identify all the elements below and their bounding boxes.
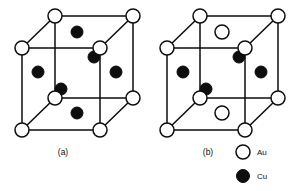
atom-au-corner-front-top-right-b <box>238 41 252 55</box>
unit-cell-panel-a: (a) <box>15 9 140 157</box>
atom-cu-face-center-left-b <box>177 66 189 78</box>
atom-cu-face-center-left-a <box>32 66 44 78</box>
atom-au-face-center-bottom-b <box>215 106 229 120</box>
atom-cu-face-center-top-a <box>71 26 83 38</box>
panel-label-b: (b) <box>203 147 214 157</box>
legend: Au Cu <box>236 145 267 183</box>
atom-au-corner-front-bottom-left-b <box>160 123 174 137</box>
atom-au-corner-front-top-right-a <box>93 41 107 55</box>
atom-au-corner-back-top-right-b <box>271 9 285 23</box>
atom-au-corner-back-top-left-b <box>193 9 207 23</box>
atom-au-face-center-top-b <box>215 25 229 39</box>
atom-cu-face-center-right-a <box>110 66 122 78</box>
unit-cell-panel-b: (b) <box>160 9 285 157</box>
legend-item-cu: Cu <box>237 170 268 183</box>
atom-cu-face-center-bottom-a <box>71 107 83 119</box>
legend-filled-circle-icon <box>237 170 250 183</box>
panel-label-a: (a) <box>58 147 69 157</box>
atom-au-corner-back-bottom-left-b <box>193 91 207 105</box>
crystal-structure-figure: (a) <box>0 0 307 191</box>
atom-au-corner-front-bottom-right-b <box>238 123 252 137</box>
atom-au-corner-front-bottom-left-a <box>15 123 29 137</box>
atom-au-corner-front-top-left-a <box>15 41 29 55</box>
atom-au-corner-front-bottom-right-a <box>93 123 107 137</box>
atom-au-corner-back-bottom-left-a <box>48 91 62 105</box>
atom-au-corner-back-top-right-a <box>126 9 140 23</box>
legend-open-circle-icon <box>236 145 250 159</box>
atom-au-corner-front-top-left-b <box>160 41 174 55</box>
atom-au-corner-back-bottom-right-a <box>126 91 140 105</box>
atom-cu-face-center-right-b <box>255 66 267 78</box>
legend-label-au: Au <box>257 148 267 157</box>
atom-au-corner-back-bottom-right-b <box>271 91 285 105</box>
legend-label-cu: Cu <box>257 172 267 181</box>
crystal-diagram-canvas: (a) <box>0 0 307 191</box>
legend-item-au: Au <box>236 145 267 159</box>
atom-au-corner-back-top-left-a <box>48 9 62 23</box>
